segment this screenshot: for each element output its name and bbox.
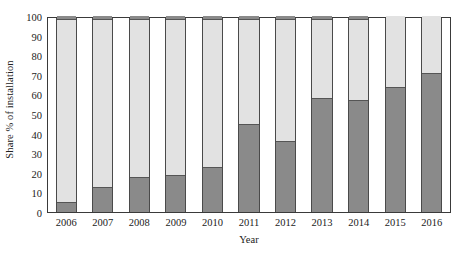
y-axis-title-text: Share % of installation <box>4 60 15 158</box>
bar-stack <box>202 18 223 212</box>
x-tick-label: 2007 <box>92 216 113 230</box>
bar-segment-top-segment <box>239 16 258 20</box>
x-tick-label: 2015 <box>385 216 406 230</box>
y-tick-label: 0 <box>37 208 42 219</box>
y-tick-label: 80 <box>32 51 43 62</box>
bar-group <box>311 18 332 212</box>
x-tick-label: 2014 <box>348 216 369 230</box>
bar-stack <box>238 18 259 212</box>
y-axis-tick-labels: 0102030405060708090100 <box>17 12 45 214</box>
bar-stack <box>165 18 186 212</box>
plot-area <box>47 17 451 213</box>
x-tick-label: 2016 <box>421 216 442 230</box>
bar-segment-middle-segment <box>349 20 368 100</box>
y-tick-label: 40 <box>32 129 43 140</box>
bar-segment-top-segment <box>203 16 222 20</box>
y-tick-label: 70 <box>32 70 43 81</box>
bar-segment-bottom-segment <box>422 73 441 212</box>
bar-segment-bottom-segment <box>203 167 222 212</box>
y-tick-label: 10 <box>32 188 43 199</box>
bar-segment-top-segment <box>93 16 112 20</box>
bar-stack <box>92 18 113 212</box>
bar-segment-middle-segment <box>312 20 331 98</box>
y-tick-label: 100 <box>26 12 42 23</box>
y-tick-label: 60 <box>32 90 43 101</box>
bar-stack <box>311 18 332 212</box>
y-tick-label: 50 <box>32 110 43 121</box>
y-tick-label: 30 <box>32 149 43 160</box>
bar-segment-top-segment <box>276 16 295 20</box>
x-tick-label: 2010 <box>202 216 223 230</box>
x-axis-title: Year <box>47 234 451 245</box>
x-tick-label: 2012 <box>275 216 296 230</box>
bar-group <box>275 18 296 212</box>
bar-stack <box>385 18 406 212</box>
bar-segment-middle-segment <box>166 20 185 175</box>
bar-group <box>92 18 113 212</box>
bar-group <box>202 18 223 212</box>
bar-group <box>421 18 442 212</box>
bar-segment-bottom-segment <box>312 98 331 212</box>
bar-group <box>238 18 259 212</box>
bar-segment-bottom-segment <box>276 141 295 212</box>
bar-stack <box>348 18 369 212</box>
x-tick-label: 2006 <box>56 216 77 230</box>
bar-group <box>348 18 369 212</box>
bar-stack <box>421 18 442 212</box>
bar-segment-bottom-segment <box>57 202 76 212</box>
bar-segment-middle-segment <box>203 20 222 167</box>
x-axis-tick-labels: 2006200720082009201020112012201320142015… <box>47 216 451 232</box>
x-tick-label: 2013 <box>312 216 333 230</box>
x-tick-label: 2008 <box>129 216 150 230</box>
bar-group <box>129 18 150 212</box>
bar-group <box>56 18 77 212</box>
x-tick-label: 2011 <box>239 216 260 230</box>
bar-stack <box>56 18 77 212</box>
bar-segment-bottom-segment <box>130 177 149 212</box>
bar-segment-bottom-segment <box>93 187 112 212</box>
y-axis-title: Share % of installation <box>0 0 18 218</box>
bar-segment-bottom-segment <box>386 87 405 212</box>
bar-segment-bottom-segment <box>166 175 185 212</box>
bar-segment-top-segment <box>130 16 149 20</box>
y-tick-label: 90 <box>32 31 43 42</box>
bar-segment-middle-segment <box>57 20 76 202</box>
bar-stack <box>275 18 296 212</box>
y-tick-label: 20 <box>32 168 43 179</box>
bar-segment-top-segment <box>349 16 368 20</box>
bar-segment-bottom-segment <box>349 100 368 212</box>
bar-segment-middle-segment <box>386 16 405 87</box>
bar-segment-top-segment <box>312 16 331 20</box>
bar-segment-bottom-segment <box>239 124 258 212</box>
bar-segment-middle-segment <box>239 20 258 124</box>
bars-layer <box>48 18 450 212</box>
bar-stack <box>129 18 150 212</box>
bar-segment-middle-segment <box>130 20 149 177</box>
bar-group <box>385 18 406 212</box>
x-tick-label: 2009 <box>165 216 186 230</box>
bar-segment-top-segment <box>57 16 76 20</box>
bar-segment-middle-segment <box>93 20 112 187</box>
bar-segment-middle-segment <box>422 16 441 73</box>
bar-group <box>165 18 186 212</box>
bar-segment-middle-segment <box>276 20 295 142</box>
stacked-bar-chart: Share % of installation 0102030405060708… <box>0 0 463 265</box>
bar-segment-top-segment <box>166 16 185 20</box>
